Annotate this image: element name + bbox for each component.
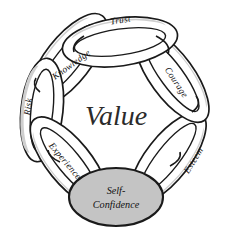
self-confidence-label-line2: Confidence <box>93 199 140 210</box>
ring-label-risk: Risk <box>22 97 34 117</box>
self-confidence-node: Self- Confidence <box>69 168 163 226</box>
value-cycle-diagram: Value Self- Confidence Trust Courage Est… <box>0 0 233 241</box>
diagram-canvas: Value Self- Confidence Trust Courage Est… <box>0 0 233 241</box>
self-confidence-label-line1: Self- <box>107 185 126 196</box>
center-value-label: Value <box>85 100 147 131</box>
